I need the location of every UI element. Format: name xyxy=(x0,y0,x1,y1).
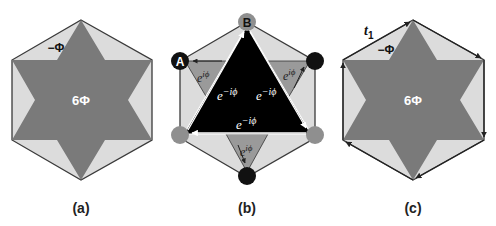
figure-canvas: −Φ 6Φ (a) B A eiϕ eiϕ xyxy=(0,0,496,226)
site-black xyxy=(238,167,256,185)
panel-a: −Φ 6Φ (a) xyxy=(12,20,152,216)
panel-c: t1 −Φ 6Φ (c) xyxy=(343,20,484,216)
caption-a: (a) xyxy=(72,200,89,216)
panel-b: B A eiϕ eiϕ eiϕ e−iϕ e−iϕ e−iϕ (b) xyxy=(171,13,324,216)
site-a-label: A xyxy=(176,55,185,69)
hopping-label: t1 xyxy=(364,23,374,41)
site-b-label: B xyxy=(243,16,252,30)
site-gray xyxy=(306,126,324,144)
site-black xyxy=(306,52,324,70)
star-flux-label: 6Φ xyxy=(404,93,422,108)
site-gray xyxy=(171,126,189,144)
star-flux-label: 6Φ xyxy=(72,93,90,108)
corner-flux-label: −Φ xyxy=(378,43,395,57)
caption-c: (c) xyxy=(404,200,421,216)
caption-b: (b) xyxy=(238,200,256,216)
corner-flux-label: −Φ xyxy=(48,41,65,55)
